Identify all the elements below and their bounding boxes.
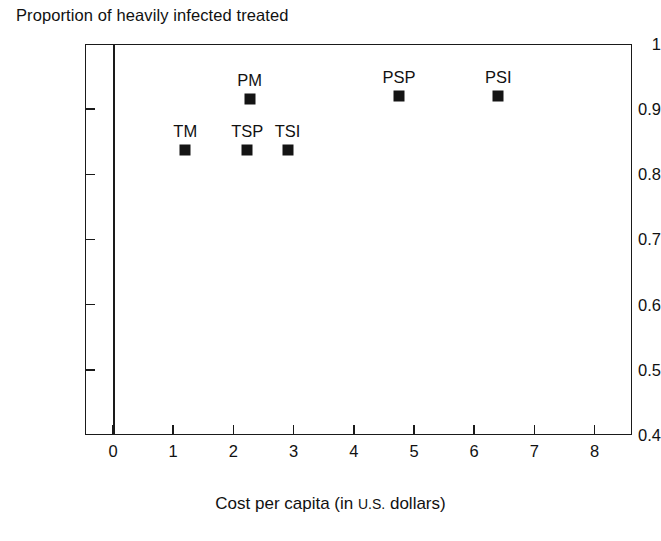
plot-area [85, 44, 632, 435]
x-axis-title-text-end: dollars) [385, 494, 445, 513]
y-axis-tick [85, 108, 95, 110]
y-axis-tick-label: 0.7 [589, 230, 661, 249]
x-axis-tick-label: 4 [334, 442, 374, 461]
scatter-chart: Proportion of heavily infected treated 1… [0, 0, 661, 541]
y-axis-tick [85, 369, 95, 371]
x-axis-tick-label: 3 [274, 442, 314, 461]
x-axis-tick [293, 425, 295, 435]
data-point-label: TSP [231, 122, 263, 141]
data-point-marker [393, 91, 404, 102]
x-axis-tick-label: 5 [394, 442, 434, 461]
y-axis-tick-label: 0.9 [589, 100, 661, 119]
x-axis-tick [473, 425, 475, 435]
x-axis-title-text: Cost per capita (in [215, 494, 358, 513]
y-axis-tick-label: 0.6 [589, 295, 661, 314]
x-axis-tick-label: 8 [575, 442, 615, 461]
x-axis-tick-label: 1 [153, 442, 193, 461]
data-point-label: PSP [382, 68, 415, 87]
data-point-label: PSI [485, 68, 512, 87]
data-point-marker [493, 91, 504, 102]
y-axis-tick [85, 304, 95, 306]
data-point-marker [180, 145, 191, 156]
x-axis-tick-label: 6 [454, 442, 494, 461]
x-axis-tick [233, 425, 235, 435]
y-axis-tick-label: 0.8 [589, 165, 661, 184]
data-point-label: TSI [275, 122, 301, 141]
data-point-marker [242, 145, 253, 156]
x-axis-tick [413, 425, 415, 435]
data-point-label: TM [173, 122, 197, 141]
data-point-marker [244, 94, 255, 105]
x-axis-tick-label: 0 [93, 442, 133, 461]
y-axis-tick [85, 239, 95, 241]
x-axis-tick-label: 7 [514, 442, 554, 461]
zero-axis-line [113, 44, 115, 435]
x-axis-title-smallcaps: U.S. [358, 496, 385, 512]
x-axis-title: Cost per capita (in U.S. dollars) [0, 494, 661, 514]
x-axis-tick [534, 425, 536, 435]
x-axis-tick [353, 425, 355, 435]
data-point-marker [282, 145, 293, 156]
x-axis-tick [112, 425, 114, 435]
data-point-label: PM [237, 71, 262, 90]
y-axis-tick [85, 174, 95, 176]
y-axis-title: Proportion of heavily infected treated [16, 6, 289, 25]
x-axis-tick-label: 2 [213, 442, 253, 461]
x-axis-tick [172, 425, 174, 435]
y-axis-tick-label: 0.5 [589, 360, 661, 379]
y-axis-tick-label: 1 [589, 34, 661, 53]
